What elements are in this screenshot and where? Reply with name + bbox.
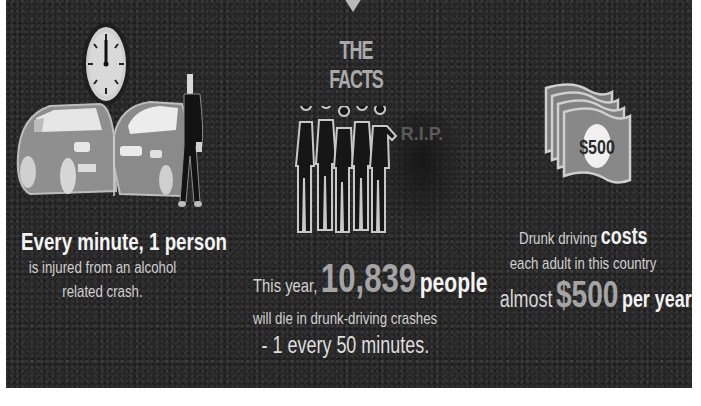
pointer-triangle-icon [344, 0, 362, 12]
fact-deaths-caption: This year, 10,839 people will die in dru… [220, 258, 470, 359]
fact-cost-line1: Drunk driving costs [472, 222, 692, 253]
money-stack-icon: $500 [542, 82, 632, 190]
fact-cost-amount: $500 [556, 274, 618, 315]
fact-cost-line2: each adult in this country [472, 253, 692, 275]
fact-injury-caption: Every minute, 1 person is injured from a… [6, 228, 212, 304]
people-silhouettes-icon [292, 106, 402, 236]
fact-deaths-headline: This year, 10,839 people [220, 258, 470, 307]
section-title: THE FACTS [313, 36, 399, 94]
fact-deaths-number: 10,839 [321, 256, 416, 300]
fact-cost-line3: almost $500 per year. [472, 275, 692, 322]
fact-injury-line3: related crash. [6, 280, 212, 304]
fact-injury-line2: is injured from an alcohol [6, 256, 212, 280]
fact-cost-emphasis: costs [600, 223, 647, 249]
fact-cost-caption: Drunk driving costs each adult in this c… [472, 222, 692, 322]
fact-deaths-line2: will die in drunk-driving crashes [220, 307, 470, 331]
fact-deaths-line3: - 1 every 50 minutes. [220, 331, 470, 359]
clock-icon [82, 22, 130, 106]
fact-injury-headline: Every minute, 1 person [6, 228, 212, 256]
infographic-panel: THE FACTS [6, 0, 692, 388]
bill-label: $500 [579, 136, 615, 158]
car-crash-icon [10, 96, 190, 206]
fact-deaths-prefix: This year, [253, 275, 317, 296]
person-standing-icon [178, 72, 206, 208]
tombstone-text: R.I.P. [401, 124, 444, 144]
